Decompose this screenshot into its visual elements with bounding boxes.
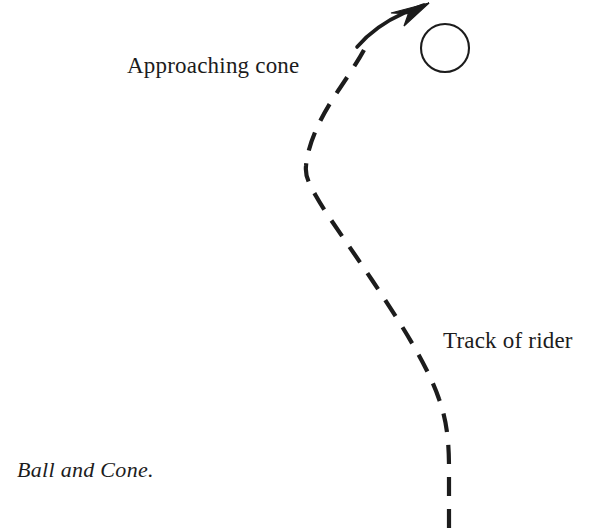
label-track-of-rider: Track of rider [443,329,573,352]
figure-drawing [0,0,593,530]
track-of-rider-path [306,50,449,528]
figure-ball-and-cone: Approaching cone Track of rider Ball and… [0,0,593,530]
label-approaching-cone: Approaching cone [127,54,299,77]
figure-caption: Ball and Cone. [17,459,154,481]
ball-circle [421,24,469,72]
